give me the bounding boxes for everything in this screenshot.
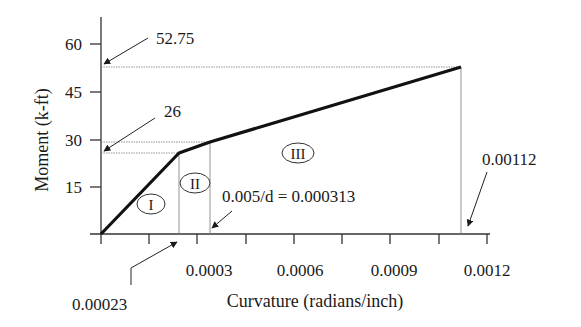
region-label-i: I (137, 194, 165, 214)
svg-text:I: I (149, 197, 154, 213)
svg-text:II: II (190, 176, 200, 192)
annotation-yield-curvature: 0.00023 (72, 242, 177, 314)
y-axis-title: Moment (k-ft) (32, 88, 53, 191)
svg-text:0.00112: 0.00112 (482, 150, 537, 169)
y-tick-labels: 15 30 45 60 (65, 35, 82, 197)
y-tick-label: 60 (65, 35, 82, 54)
annotation-peak-moment: 52.75 (104, 29, 194, 64)
annotation-ultimate-curvature: 0.00112 (468, 150, 537, 226)
svg-text:52.75: 52.75 (156, 29, 194, 48)
x-tick-label: 0.0009 (371, 261, 418, 280)
y-tick-label: 15 (65, 178, 82, 197)
svg-text:0.00023: 0.00023 (72, 295, 127, 314)
region-label-iii: III (282, 143, 314, 163)
x-tick-label: 0.0012 (464, 261, 511, 280)
y-tick-label: 45 (65, 83, 82, 102)
moment-curvature-chart: 15 30 45 60 0.0003 0.0006 0.0009 0.0012 … (0, 0, 581, 327)
x-axis-title: Curvature (radians/inch) (227, 291, 403, 312)
x-tick-label: 0.0006 (277, 261, 324, 280)
svg-text:26: 26 (164, 102, 181, 121)
region-label-ii: II (180, 173, 210, 193)
y-tick-label: 30 (65, 131, 82, 150)
annotation-yield-moment: 26 (104, 102, 181, 151)
x-tick-label: 0.0003 (186, 261, 233, 280)
annotation-limit-curvature: 0.005/d = 0.000313 (212, 187, 355, 228)
svg-text:0.005/d = 0.000313: 0.005/d = 0.000313 (222, 187, 355, 206)
svg-text:III: III (291, 146, 306, 162)
x-tick-labels: 0.0003 0.0006 0.0009 0.0012 (186, 261, 511, 280)
